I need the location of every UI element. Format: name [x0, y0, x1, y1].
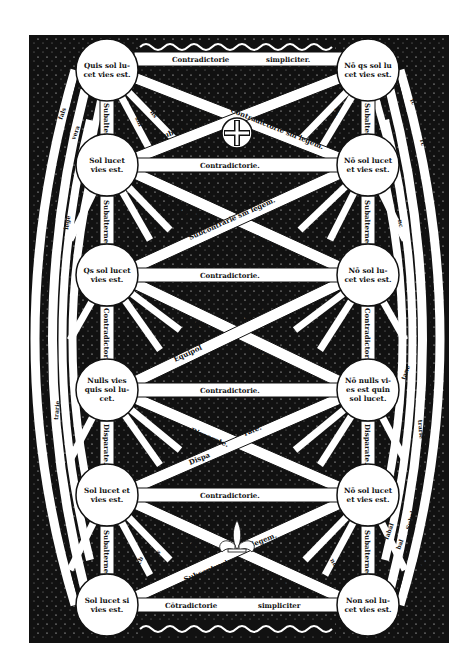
svg-text:vies est.: vies est.: [90, 165, 123, 174]
svg-text:vies est.: vies est.: [90, 605, 123, 614]
svg-text:vies est.: vies est.: [90, 495, 123, 504]
svg-text:Quis sol lu-: Quis sol lu-: [84, 61, 130, 70]
hband-4: Contradictorie.: [200, 386, 260, 395]
svg-text:nc: nc: [397, 219, 405, 228]
svg-text:sol lucet.: sol lucet.: [350, 394, 387, 403]
node-4: Nō sol lucet et vies est.: [337, 134, 399, 196]
node-11: Sol lucet si vies est.: [76, 574, 138, 636]
svg-text:Nō qs sol lu: Nō qs sol lu: [344, 61, 391, 70]
node-9: Sol lucet et vies est.: [76, 464, 138, 526]
svg-text:cet vies est.: cet vies est.: [83, 70, 130, 79]
svg-text:Nulls vies: Nulls vies: [87, 376, 126, 385]
svg-text:cet vies est.: cet vies est.: [344, 275, 391, 284]
node-7: Nulls vies quis sol lu- cet.: [76, 359, 138, 421]
rope-border-bottom: [140, 622, 335, 636]
hband-2: Contradictorie.: [200, 161, 260, 170]
node-1: Quis sol lu- cet vies est.: [76, 39, 138, 101]
hband-3: Contradictorie.: [200, 271, 260, 280]
svg-text:Nō sol lucet: Nō sol lucet: [344, 156, 393, 165]
hband-5: Contradictorie.: [200, 491, 260, 500]
svg-text:et vies est.: et vies est.: [347, 495, 390, 504]
node-8: Nō nulls vi- es est quin sol lucet.: [337, 359, 399, 421]
node-2: Nō qs sol lu cet vies est.: [337, 39, 399, 101]
svg-text:Sol lucet et: Sol lucet et: [84, 486, 131, 495]
vband-l5: Subalterne.: [102, 530, 111, 576]
svg-text:vies est.: vies est.: [90, 275, 123, 284]
svg-text:et vies est.: et vies est.: [347, 165, 390, 174]
svg-text:es est quin: es est quin: [346, 385, 391, 394]
square-of-opposition-woodcut: Subalterne. Subalterne. Subalterne. Suba…: [0, 0, 475, 661]
cross-medallion-icon: [222, 118, 252, 148]
svg-text:cet vies est.: cet vies est.: [344, 70, 391, 79]
svg-text:cet.: cet.: [100, 394, 115, 403]
svg-text:Nō sol lu-: Nō sol lu-: [349, 266, 388, 275]
hband-1-right: simpliciter.: [266, 55, 310, 64]
node-3: Sol lucet vies est.: [76, 134, 138, 196]
svg-text:Sol lucet si: Sol lucet si: [85, 596, 130, 605]
svg-text:Nō nulls vi-: Nō nulls vi-: [345, 376, 391, 385]
svg-text:cet vies est.: cet vies est.: [344, 605, 391, 614]
vband-r2: Subalterne.: [363, 200, 372, 246]
node-12: Non sol lu- cet vies est.: [337, 574, 399, 636]
node-6: Nō sol lu- cet vies est.: [337, 244, 399, 306]
svg-text:Nō sol lucet: Nō sol lucet: [344, 486, 393, 495]
hband-1-left: Contradictorie: [172, 55, 230, 64]
vband-r5: Subalterne.: [363, 530, 372, 576]
hband-6-left: Cōtradictorie: [165, 601, 218, 610]
svg-text:Non sol lu-: Non sol lu-: [346, 596, 390, 605]
vband-l2: Subalterne.: [102, 200, 111, 246]
vband-l4: Disparate.: [102, 424, 111, 464]
svg-text:Sol lucet: Sol lucet: [89, 156, 125, 165]
node-5: Qs sol lucet vies est.: [76, 244, 138, 306]
svg-text:Qs sol lucet: Qs sol lucet: [83, 266, 131, 275]
svg-text:quis sol lu-: quis sol lu-: [85, 385, 130, 394]
vband-r4: Disparate.: [363, 424, 372, 464]
node-10: Nō sol lucet et vies est.: [337, 464, 399, 526]
hband-6-right: simpliciter: [258, 601, 301, 610]
